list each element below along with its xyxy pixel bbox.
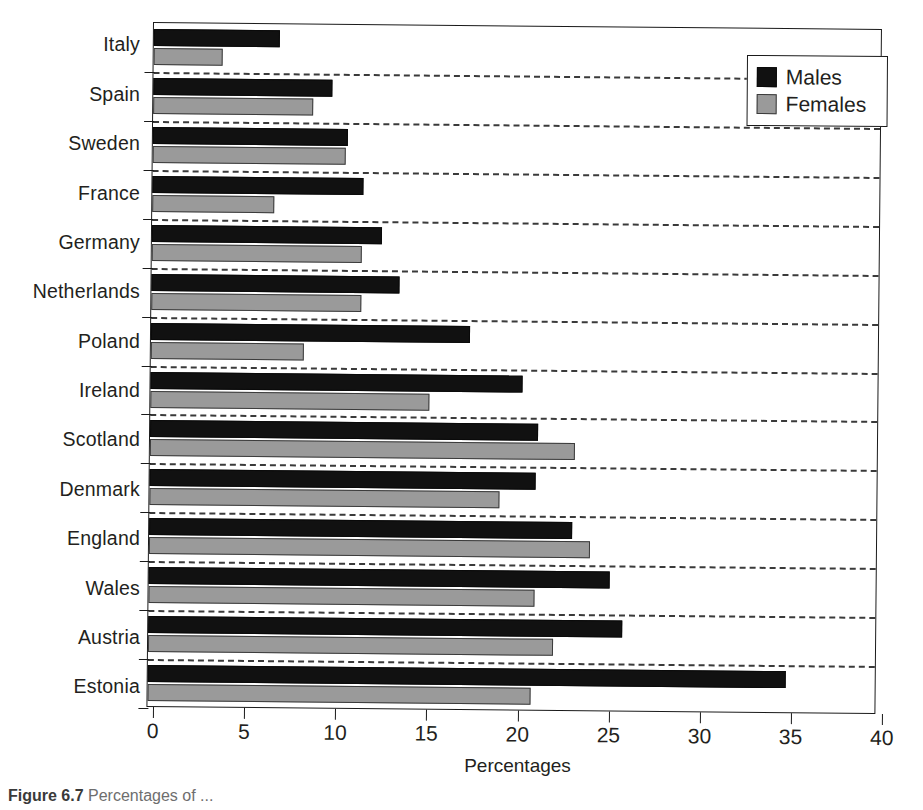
x-axis-tick-20 [517, 710, 518, 721]
bar-males-sweden [153, 127, 348, 146]
bar-group-poland [151, 323, 878, 373]
bar-group-scotland [150, 420, 877, 470]
y-axis-label-england: England [2, 527, 150, 550]
x-axis-tick-label-15: 15 [414, 722, 438, 746]
legend-label-males: Males [786, 66, 842, 87]
x-axis-tick-0 [153, 707, 154, 718]
bar-females-wales [148, 586, 535, 607]
figure-caption: Figure 6.7 Percentages of ... [8, 787, 913, 810]
x-axis-tick-label-0: 0 [147, 719, 159, 743]
bar-males-netherlands [151, 274, 399, 293]
y-axis-label-spain: Spain [2, 83, 150, 106]
bar-females-austria [148, 635, 553, 656]
legend-item-females: Females [757, 90, 878, 118]
bar-females-spain [153, 97, 314, 116]
figure-container: ItalySpainSwedenFranceGermanyNetherlands… [0, 0, 923, 810]
y-axis-ticks-layer [154, 23, 881, 30]
bar-group-france [152, 176, 879, 226]
bar-females-italy [154, 48, 223, 66]
y-axis-label-italy: Italy [2, 33, 150, 56]
y-axis-label-estonia: Estonia [2, 675, 150, 698]
bar-females-france [152, 195, 274, 213]
bar-males-austria [148, 616, 622, 638]
y-axis-label-austria: Austria [2, 626, 150, 649]
bar-males-ireland [150, 371, 522, 392]
x-axis-tick-label-40: 40 [870, 726, 894, 750]
x-axis-title: Percentages [153, 755, 882, 777]
bar-males-england [149, 518, 572, 539]
bar-group-wales [148, 567, 875, 617]
y-axis-label-poland: Poland [2, 330, 150, 353]
y-axis-labels: ItalySpainSwedenFranceGermanyNetherlands… [0, 0, 150, 810]
bar-males-scotland [150, 420, 538, 441]
x-axis-tick-35 [791, 713, 792, 724]
x-axis-tick-30 [700, 712, 701, 723]
bar-group-england [149, 518, 876, 568]
x-axis-tick-label-20: 20 [505, 722, 529, 746]
y-axis-label-scotland: Scotland [2, 428, 150, 451]
bar-females-ireland [150, 390, 429, 410]
x-axis-tick-25 [608, 711, 609, 722]
bar-group-netherlands [151, 274, 878, 324]
bar-females-scotland [150, 439, 575, 460]
y-axis-label-germany: Germany [2, 231, 150, 254]
bar-females-netherlands [151, 293, 361, 312]
bar-females-denmark [149, 488, 499, 508]
x-axis-tick-label-5: 5 [238, 720, 250, 744]
bar-males-italy [154, 29, 280, 47]
x-axis-tick-5 [244, 708, 245, 719]
bar-females-poland [151, 342, 304, 360]
legend-label-females: Females [786, 93, 867, 115]
bar-males-spain [153, 78, 332, 97]
x-axis-tick-15 [426, 710, 427, 721]
y-axis-label-denmark: Denmark [2, 478, 150, 501]
x-axis-tick-label-25: 25 [597, 723, 621, 747]
bar-group-ireland [150, 371, 877, 421]
legend-swatch-females-icon [757, 94, 777, 114]
y-axis-label-ireland: Ireland [2, 379, 150, 402]
y-axis-label-sweden: Sweden [2, 132, 150, 155]
x-axis-tick-10 [335, 709, 336, 720]
legend-item-males: Males [757, 63, 878, 91]
y-axis-label-wales: Wales [2, 577, 150, 600]
x-axis-tick-40 [882, 714, 883, 725]
y-axis-label-france: France [2, 182, 150, 205]
figure-caption-number: Figure 6.7 [8, 787, 84, 804]
bars-layer [154, 23, 881, 30]
figure-caption-text: Percentages of ... [88, 787, 213, 804]
bar-males-poland [151, 323, 470, 343]
bar-males-denmark [150, 469, 537, 490]
bar-group-austria [148, 616, 875, 666]
x-axis-tick-label-10: 10 [323, 721, 347, 745]
bar-group-germany [152, 225, 879, 275]
bar-females-estonia [147, 684, 530, 705]
x-axis-tick-label-30: 30 [688, 724, 712, 748]
bar-females-germany [152, 244, 362, 263]
y-axis-label-netherlands: Netherlands [2, 280, 150, 303]
separator-lines-layer [154, 23, 881, 30]
bar-females-sweden [153, 146, 346, 165]
bar-males-wales [149, 567, 610, 588]
bar-males-france [152, 176, 364, 195]
legend-swatch-males-icon [757, 67, 777, 87]
bar-group-denmark [149, 469, 876, 519]
bar-females-england [149, 537, 590, 558]
bar-males-germany [152, 225, 382, 244]
bar-group-sweden [153, 127, 880, 177]
chart-legend: Males Females [747, 55, 888, 127]
x-axis-tick-label-35: 35 [779, 725, 803, 749]
